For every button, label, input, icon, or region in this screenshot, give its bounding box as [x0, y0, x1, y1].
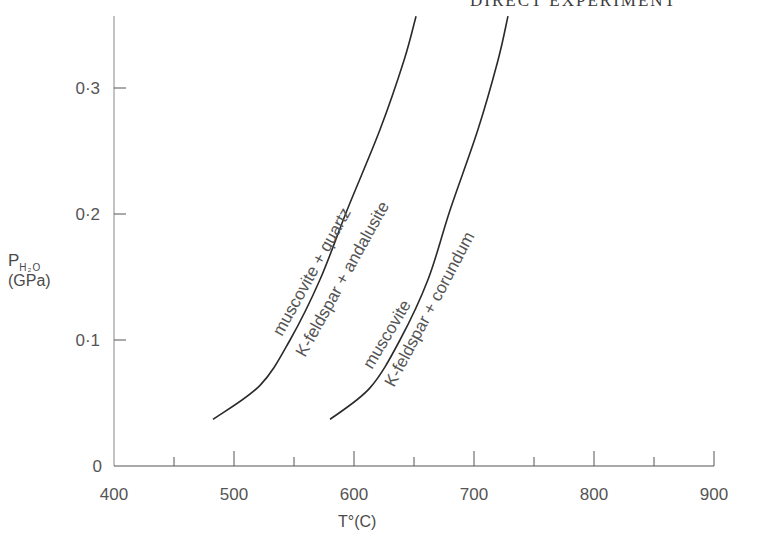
x-tick-label: 400 — [100, 485, 128, 504]
x-tick-label: 700 — [460, 485, 488, 504]
y-axis-subscript: H₂O — [19, 262, 41, 273]
curve-labels: muscovite + quartzK-feldspar + andalusit… — [269, 198, 479, 390]
x-tick-label: 600 — [340, 485, 368, 504]
y-axis-symbol: P — [8, 251, 19, 270]
x-tick-label: 500 — [220, 485, 248, 504]
y-tick-label: 0 — [93, 457, 102, 476]
y-tick-label: 0·3 — [75, 79, 100, 98]
y-axis-label: PH₂O (GPa) — [8, 252, 51, 290]
y-axis-unit: (GPa) — [8, 272, 51, 290]
x-axis-label: T°(C) — [338, 513, 376, 531]
y-tick-label: 0·2 — [75, 205, 100, 224]
y-tick-label: 0·1 — [75, 331, 100, 350]
axes: 40050060070080090000·10·20·3 — [75, 16, 728, 504]
reaction-curve-2 — [330, 16, 508, 419]
x-tick-label: 900 — [700, 485, 728, 504]
phase-diagram: 40050060070080090000·10·20·3 muscovite +… — [0, 0, 761, 534]
x-tick-label: 800 — [580, 485, 608, 504]
